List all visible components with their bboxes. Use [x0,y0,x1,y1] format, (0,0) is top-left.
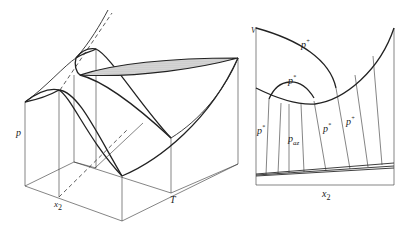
left-3d-diagram: p x2 T [15,10,238,221]
right-v-x2-diagram: V p+ p* p* paz p* p+ x2 [251,26,394,202]
axis-label-x2-right: x2 [321,188,330,202]
front-dew-curve [59,90,122,176]
axis-label-T: T [170,194,177,205]
azeotrope-upper-dashed [60,13,112,90]
label-p-plus-right: p+ [345,115,355,127]
shaded-two-phase-band [80,58,238,76]
curve-p-plus-top [256,28,336,88]
label-p-star-left: p* [256,124,265,136]
phase-diagram-canvas: p x2 T V p+ p* p* paz p* p+ [0,0,406,230]
vapor-pressure-curve [25,10,108,102]
label-p-plus-top: p+ [300,38,310,50]
label-p-star-dome: p* [287,74,296,86]
axis-label-p: p [15,127,21,138]
critical-curve [122,58,238,176]
front-lens-upper [25,90,122,177]
label-p-star-middle: p* [322,122,331,134]
axis-label-x2: x2 [53,199,62,212]
